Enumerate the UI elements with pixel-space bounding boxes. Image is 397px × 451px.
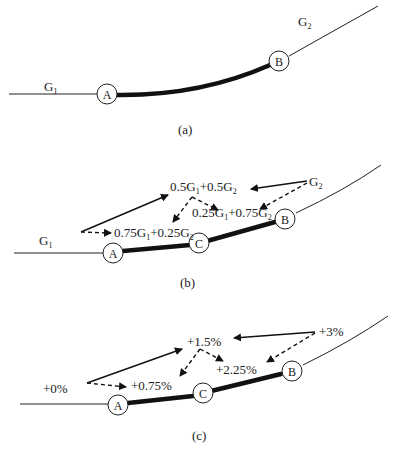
svg-text:C: C: [199, 387, 207, 401]
vertical-curve-diagram: A B G1 G2 (a) A C B G1: [0, 0, 397, 451]
arrow-right-to-cb: [267, 333, 315, 362]
svg-text:B: B: [281, 213, 289, 227]
ac-grade-label: 0.75G1+0.25G2: [114, 225, 194, 242]
arrow-left-to-ac: [87, 383, 126, 387]
svg-text:A: A: [109, 247, 118, 261]
grade-g2-label: G2: [309, 174, 322, 191]
node-b: B: [275, 209, 295, 229]
grade-3-line: [303, 316, 388, 365]
grade-g2-line: [296, 165, 381, 213]
svg-text:B: B: [288, 365, 296, 379]
node-c: C: [193, 383, 213, 403]
node-a: A: [103, 243, 123, 263]
svg-text:A: A: [114, 399, 123, 413]
node-b: B: [282, 361, 302, 381]
grade-g1-label: G1: [39, 233, 52, 250]
grade-left-label: +0%: [43, 381, 68, 396]
cb-grade-label: 0.25G1+0.75G2: [192, 205, 272, 222]
arrow-mid-to-ac: [173, 197, 192, 222]
arrow-right-to-mid: [234, 332, 315, 338]
arrow-mid-to-cb: [200, 349, 223, 361]
arrow-mid-to-ac: [180, 349, 200, 376]
grade-right-label: +3%: [319, 324, 344, 339]
caption-a: (a): [178, 122, 192, 137]
arrow-g1-to-ac: [81, 232, 111, 233]
node-b: B: [269, 51, 289, 71]
grade-g2-label: G2: [298, 14, 311, 31]
vertical-curve: [117, 65, 270, 95]
panel-a: A B G1 G2 (a): [9, 6, 378, 137]
svg-text:B: B: [275, 55, 283, 69]
svg-text:A: A: [103, 88, 112, 102]
panel-c: A C B +0% +3% +1.5% +0.75% +2.25% (c): [20, 316, 388, 443]
node-a: A: [97, 84, 117, 104]
midpoint-grade-label: +1.5%: [187, 334, 222, 349]
panel-b: A C B G1 G2 0.5G1+0.5G2 0.75G1+0.25G2 0.…: [14, 165, 381, 290]
caption-c: (c): [192, 428, 206, 443]
cb-grade-label: +2.25%: [216, 362, 257, 377]
svg-text:C: C: [195, 237, 203, 251]
midpoint-grade-label: 0.5G1+0.5G2: [170, 179, 237, 196]
ac-grade-label: +0.75%: [131, 378, 172, 393]
caption-b: (b): [180, 275, 195, 290]
grade-g1-label: G1: [44, 79, 57, 96]
node-a: A: [108, 395, 128, 415]
